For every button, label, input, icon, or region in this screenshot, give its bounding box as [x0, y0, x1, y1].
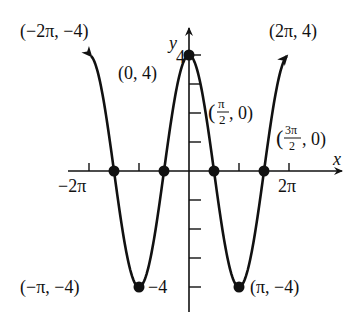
tick-label-neg-2pi: −2π	[58, 176, 86, 196]
point-zero-neg-3pi-2	[109, 166, 120, 177]
x-axis-label: x	[332, 149, 341, 169]
tick-label-4: 4	[176, 47, 185, 67]
label-2pi-4: (2π, 4)	[269, 21, 317, 42]
label-0-4: (0, 4)	[118, 63, 157, 84]
cosine-graph: y x −2π 2π 4 −4 (−2π, −4) (2π, 4) (0, 4)…	[0, 0, 357, 320]
point-min-right	[234, 282, 245, 293]
point-max	[184, 50, 195, 61]
tick-label-2pi: 2π	[278, 176, 296, 196]
svg-text:2: 2	[289, 139, 295, 153]
svg-text:3π: 3π	[285, 123, 297, 137]
tick-label-neg-4: −4	[148, 277, 167, 297]
svg-text:(: (	[208, 99, 215, 124]
label-pi-neg-4: (π, −4)	[250, 277, 299, 298]
svg-text:2: 2	[219, 112, 226, 127]
label-neg-pi-neg-4: (−π, −4)	[20, 277, 79, 298]
point-min-left	[134, 282, 145, 293]
svg-text:(: (	[276, 125, 283, 150]
label-neg-2pi-neg-4: (−2π, −4)	[20, 21, 88, 42]
svg-text:, 0): , 0)	[302, 129, 326, 150]
svg-text:, 0): , 0)	[229, 103, 253, 124]
label-pi-over-2-0: ( π 2 , 0)	[208, 96, 253, 127]
label-3pi-over-2-0: ( 3π 2 , 0)	[276, 123, 326, 153]
point-zero-neg-pi-2	[159, 166, 170, 177]
svg-text:π: π	[218, 96, 225, 111]
point-zero-pi-2	[209, 166, 220, 177]
point-zero-3pi-2	[259, 166, 270, 177]
